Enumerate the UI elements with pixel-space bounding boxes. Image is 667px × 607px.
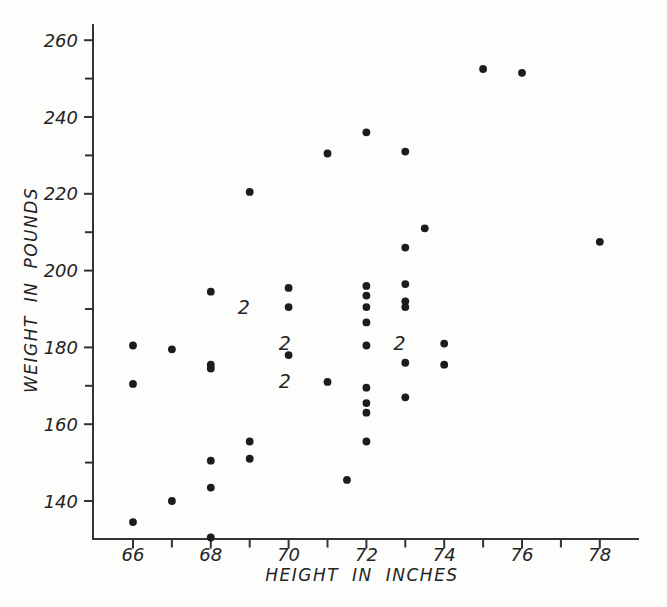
data-points — [129, 65, 604, 541]
x-tick-label: 74 — [433, 544, 456, 565]
data-point — [324, 378, 332, 386]
x-tick-label: 72 — [355, 544, 378, 565]
data-point — [168, 345, 176, 353]
data-point — [207, 484, 215, 492]
data-point — [246, 188, 254, 196]
axes — [93, 25, 638, 539]
multiplicity-label: 2 — [279, 370, 291, 392]
y-tick-label: 240 — [44, 107, 78, 128]
data-point — [363, 282, 371, 290]
y-axis-ticks: 140160180200220240260 — [44, 30, 93, 512]
data-point — [285, 284, 293, 292]
data-point — [401, 359, 409, 367]
data-point — [324, 150, 332, 158]
data-point — [401, 393, 409, 401]
data-point — [363, 303, 371, 311]
data-point — [207, 288, 215, 296]
data-point — [246, 455, 254, 463]
data-point — [440, 340, 448, 348]
data-point — [401, 280, 409, 288]
y-tick-label: 200 — [44, 260, 78, 281]
data-point — [343, 476, 351, 484]
data-point — [518, 69, 526, 77]
data-point — [363, 384, 371, 392]
x-axis-title: HEIGHT IN INCHES — [265, 565, 458, 585]
data-point — [440, 361, 448, 369]
multiplicity-label: 2 — [393, 332, 405, 354]
data-point — [363, 128, 371, 136]
data-point — [401, 244, 409, 252]
data-point — [207, 365, 215, 373]
data-point — [363, 438, 371, 446]
data-point — [596, 238, 604, 246]
data-point — [363, 342, 371, 350]
data-point — [363, 319, 371, 327]
data-point — [129, 342, 137, 350]
x-tick-label: 78 — [588, 544, 611, 565]
y-tick-label: 160 — [44, 414, 78, 435]
data-point — [363, 292, 371, 300]
data-point — [401, 148, 409, 156]
data-point — [129, 518, 137, 526]
scatter-chart: 140160180200220240260 66687072747678 222… — [0, 0, 667, 607]
data-point — [363, 399, 371, 407]
data-point — [246, 438, 254, 446]
data-point — [168, 497, 176, 505]
data-point — [129, 380, 137, 388]
multiplicity-label: 2 — [238, 296, 250, 318]
data-point — [363, 409, 371, 417]
x-tick-label: 68 — [199, 544, 222, 565]
x-tick-label: 76 — [511, 544, 534, 565]
x-axis-ticks: 66687072747678 — [122, 539, 612, 565]
y-tick-label: 260 — [44, 30, 78, 51]
y-axis-title: WEIGHT IN POUNDS — [21, 187, 41, 393]
y-tick-label: 140 — [44, 491, 78, 512]
scatter-plot-figure: 140160180200220240260 66687072747678 222… — [0, 0, 667, 607]
data-point — [421, 224, 429, 232]
data-point — [207, 457, 215, 465]
data-point — [207, 534, 215, 542]
y-tick-label: 180 — [44, 337, 78, 358]
multiplicity-labels: 2222 — [238, 296, 406, 393]
y-tick-label: 220 — [44, 183, 78, 204]
x-tick-label: 66 — [122, 544, 145, 565]
multiplicity-label: 2 — [279, 332, 291, 354]
data-point — [285, 303, 293, 311]
x-tick-label: 70 — [277, 544, 300, 565]
data-point — [479, 65, 487, 73]
data-point — [401, 303, 409, 311]
